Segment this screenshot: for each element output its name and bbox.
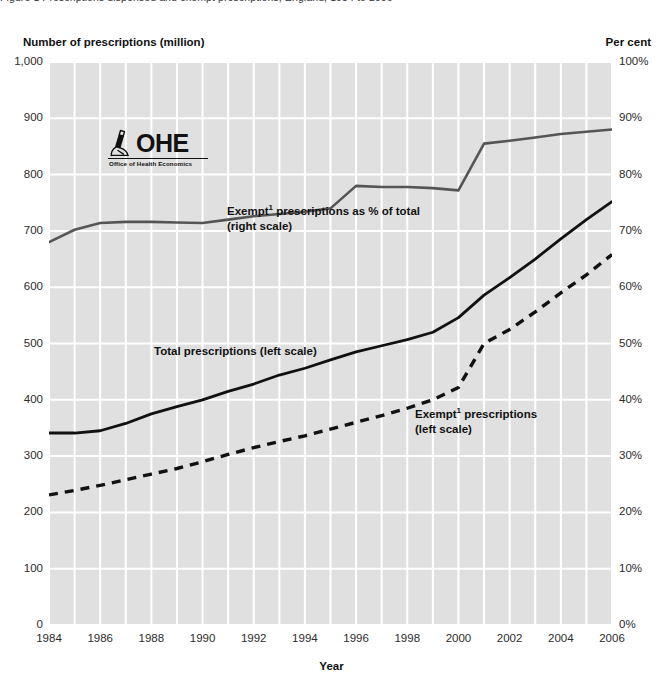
plot-area: OHE Office of Health Economics Exempt1 p… bbox=[49, 62, 612, 625]
x-tick-label: 1998 bbox=[394, 632, 420, 644]
annotation-exempt-percent-line1: Exempt1 prescriptions as % of total bbox=[227, 203, 420, 219]
ohe-logo: OHE Office of Health Economics bbox=[107, 128, 209, 174]
left-tick-label: 200 bbox=[24, 506, 43, 518]
right-axis-ticks: 100%90%80%70%60%50%40%30%20%10%0% bbox=[619, 0, 663, 695]
left-tick-label: 700 bbox=[24, 225, 43, 237]
ohe-tagline: Office of Health Economics bbox=[109, 160, 192, 167]
x-tick-label: 2000 bbox=[446, 632, 472, 644]
x-tick-label: 1986 bbox=[87, 632, 113, 644]
right-tick-label: 20% bbox=[619, 506, 642, 518]
annotation-exempt-absolute: Exempt1 prescriptions (left scale) bbox=[415, 406, 537, 438]
right-tick-label: 10% bbox=[619, 563, 642, 575]
left-tick-label: 900 bbox=[24, 112, 43, 124]
annotation-exempt-absolute-line2: (left scale) bbox=[415, 422, 537, 438]
x-tick-label: 1992 bbox=[241, 632, 267, 644]
chart-page: Figure 1 Prescriptions dispensed and exe… bbox=[0, 0, 663, 695]
right-tick-label: 80% bbox=[619, 169, 642, 181]
left-tick-label: 400 bbox=[24, 394, 43, 406]
right-tick-label: 50% bbox=[619, 338, 642, 350]
x-tick-label: 2002 bbox=[497, 632, 523, 644]
left-tick-label: 1,000 bbox=[14, 56, 43, 68]
right-tick-label: 40% bbox=[619, 394, 642, 406]
annot-exempt-abs-word: Exempt bbox=[415, 408, 457, 420]
left-tick-label: 300 bbox=[24, 450, 43, 462]
annot-exempt-abs-rest: prescriptions bbox=[461, 408, 537, 420]
x-axis-title: Year bbox=[0, 660, 663, 672]
x-tick-label: 1996 bbox=[343, 632, 369, 644]
annot-exempt-pct-rest: prescriptions as % of total bbox=[273, 205, 420, 217]
x-tick-label: 1984 bbox=[36, 632, 62, 644]
left-axis-title: Number of prescriptions (million) bbox=[23, 36, 204, 48]
ohe-wordmark: OHE bbox=[136, 131, 189, 156]
annotation-total: Total prescriptions (left scale) bbox=[154, 344, 317, 360]
left-tick-label: 0 bbox=[37, 619, 43, 631]
figure-caption: Figure 1 Prescriptions dispensed and exe… bbox=[0, 0, 663, 5]
annot-exempt-pct-word: Exempt bbox=[227, 205, 269, 217]
left-tick-label: 100 bbox=[24, 563, 43, 575]
right-tick-label: 100% bbox=[619, 56, 648, 68]
x-tick-label: 1990 bbox=[190, 632, 216, 644]
right-tick-label: 60% bbox=[619, 281, 642, 293]
microscope-icon bbox=[107, 128, 137, 158]
left-tick-label: 600 bbox=[24, 281, 43, 293]
left-tick-label: 800 bbox=[24, 169, 43, 181]
annotation-exempt-percent-line2: (right scale) bbox=[227, 219, 420, 235]
x-tick-label: 1994 bbox=[292, 632, 318, 644]
right-tick-label: 0% bbox=[619, 619, 636, 631]
annotation-exempt-absolute-line1: Exempt1 prescriptions bbox=[415, 406, 537, 422]
x-tick-label: 2004 bbox=[548, 632, 574, 644]
right-tick-label: 90% bbox=[619, 112, 642, 124]
x-axis-ticks: 1984198619881990199219941996199820002002… bbox=[0, 632, 663, 650]
x-tick-label: 1988 bbox=[139, 632, 165, 644]
ohe-divider bbox=[108, 158, 208, 159]
right-tick-label: 30% bbox=[619, 450, 642, 462]
right-tick-label: 70% bbox=[619, 225, 642, 237]
left-tick-label: 500 bbox=[24, 338, 43, 350]
left-axis-ticks: 1,0009008007006005004003002001000 bbox=[0, 0, 43, 695]
annotation-exempt-percent: Exempt1 prescriptions as % of total (rig… bbox=[227, 203, 420, 235]
x-tick-label: 2006 bbox=[599, 632, 625, 644]
